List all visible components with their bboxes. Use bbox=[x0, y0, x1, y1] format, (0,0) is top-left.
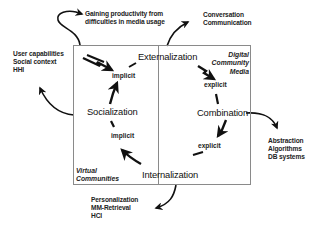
region-virtual-communities: Virtual Communities bbox=[76, 167, 119, 184]
note-left-line-3: HHI bbox=[13, 66, 64, 74]
arrow-to-top-note bbox=[58, 11, 82, 45]
label-socialization: Socialization bbox=[87, 107, 138, 116]
region-right-line-2: Community bbox=[212, 59, 249, 67]
note-right-line-2: Algorithms bbox=[268, 145, 305, 153]
label-explicit-bottom: explicit bbox=[198, 143, 221, 150]
note-left-line-2: Social context bbox=[13, 58, 64, 66]
note-top-line-2: difficulties in media usage bbox=[85, 18, 165, 26]
note-right: Abstraction Algorithms DB systems bbox=[268, 137, 305, 162]
label-explicit-top: explicit bbox=[204, 82, 227, 89]
arrow-to-left-note bbox=[40, 88, 74, 115]
note-bottom: Personalization MM-Retrieval HCI bbox=[91, 196, 138, 221]
note-bottom-line-1: Personalization bbox=[91, 196, 138, 204]
label-internalization: Internalization bbox=[142, 170, 198, 179]
note-bottom-line-2: MM-Retrieval bbox=[91, 204, 138, 212]
note-bottom-line-3: HCI bbox=[91, 212, 138, 220]
region-right-line-1: Digital bbox=[212, 51, 249, 59]
note-top-line-1: Gaining productivity from bbox=[85, 10, 165, 18]
note-top-right-line-1: Conversation bbox=[203, 11, 252, 19]
region-digital-community-media: Digital Community Media bbox=[212, 51, 249, 76]
note-right-line-3: DB systems bbox=[268, 153, 305, 161]
note-top: Gaining productivity from difficulties i… bbox=[85, 10, 165, 26]
label-implicit-bottom: implicit bbox=[111, 133, 134, 140]
note-top-right: Conversation Communication bbox=[203, 11, 252, 27]
arrow-to-bottom-note bbox=[156, 185, 176, 208]
label-combination: Combination bbox=[197, 108, 248, 117]
region-right-line-3: Media bbox=[212, 68, 249, 76]
label-externalization: Externalization bbox=[138, 52, 197, 61]
arrow-to-conversation-note bbox=[167, 22, 188, 46]
label-implicit-top: implicit bbox=[112, 73, 135, 80]
frame-divider bbox=[158, 45, 159, 185]
note-left: User capabilities Social context HHI bbox=[13, 50, 64, 75]
region-left-line-1: Virtual bbox=[76, 167, 119, 175]
note-right-line-1: Abstraction bbox=[268, 137, 305, 145]
note-left-line-1: User capabilities bbox=[13, 50, 64, 58]
region-left-line-2: Communities bbox=[76, 175, 119, 183]
note-top-right-line-2: Communication bbox=[203, 19, 252, 27]
